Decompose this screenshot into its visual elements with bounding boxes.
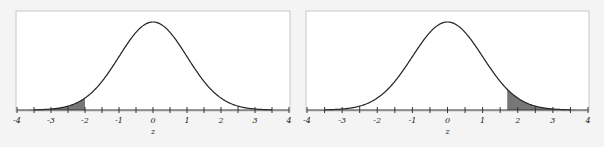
x-tick-label: 1 <box>480 116 485 125</box>
x-tick-label: 0 <box>445 116 450 125</box>
x-tick-label: -3 <box>338 116 346 125</box>
x-tick-label: -1 <box>408 116 416 125</box>
x-tick-label: -4 <box>303 116 311 125</box>
x-axis-label: z <box>444 127 450 136</box>
x-tick-label: 2 <box>514 116 520 125</box>
plot-frame <box>306 11 589 111</box>
x-tick-label: -2 <box>373 116 381 125</box>
x-tick-label: 4 <box>584 116 590 125</box>
x-tick-label: 3 <box>550 116 555 125</box>
